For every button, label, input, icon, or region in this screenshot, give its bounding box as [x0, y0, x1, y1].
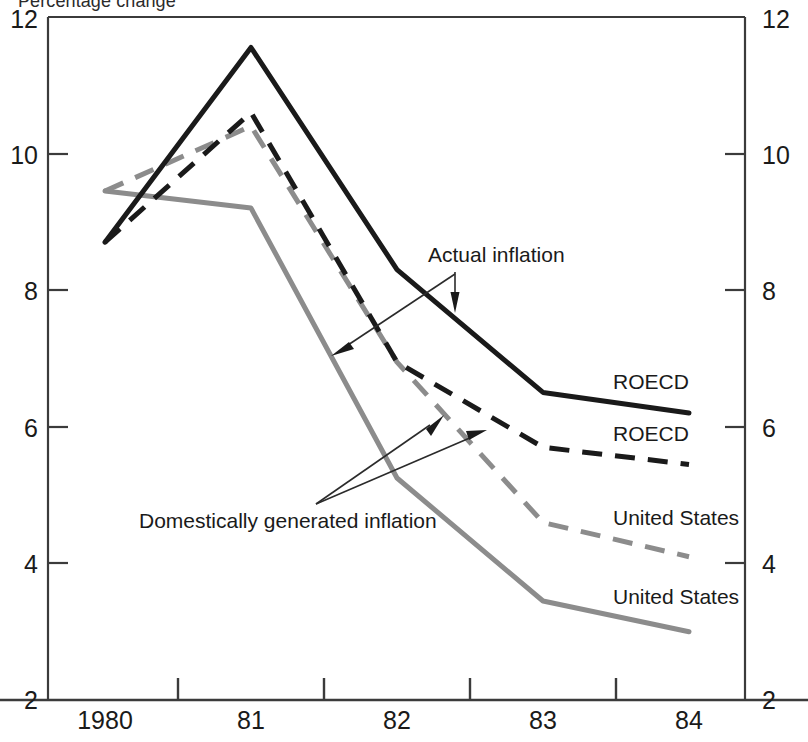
x-tick-label: 82	[383, 706, 411, 734]
y-axis-labels-left: 12 10 8 6 4 2	[10, 5, 38, 714]
series-label-us-domestic: United States	[613, 506, 739, 529]
series-label-us-domestic-group: United States	[613, 506, 739, 529]
y-tick-label: 6	[762, 414, 776, 442]
annotation-actual-inflation-label: Actual inflation	[428, 243, 565, 266]
y-tick-label: 6	[24, 414, 38, 442]
x-tick-label: 1980	[77, 706, 133, 734]
y-tick-label: 2	[24, 686, 38, 714]
y-axis-labels-right: 12 10 8 6 4 2	[762, 5, 790, 714]
annotation-domestic-inflation-label: Domestically generated inflation	[139, 509, 437, 532]
series-label-roecd-domestic-group: ROECD	[613, 422, 689, 445]
y-axis-ticks-right	[725, 154, 745, 563]
x-tick-label: 83	[529, 706, 557, 734]
series-label-roecd-actual-group: ROECD	[613, 370, 689, 393]
series-line-us-domestic	[105, 126, 689, 557]
x-tick-label: 84	[675, 706, 703, 734]
line-chart-svg: 12 10 8 6 4 2 12 10 8 6 4 2 1980 81 82 8…	[0, 0, 808, 742]
y-tick-label: 4	[24, 550, 38, 578]
series-label-roecd-domestic: ROECD	[613, 422, 689, 445]
y-tick-label: 2	[762, 686, 776, 714]
series-line-roecd-domestic	[105, 113, 689, 465]
y-axis-ticks-left	[48, 154, 68, 563]
y-tick-label: 12	[762, 5, 790, 33]
series-line-us-actual	[105, 191, 689, 632]
x-axis-ticks	[178, 678, 616, 700]
y-tick-label: 8	[24, 277, 38, 305]
chart-title: Percentage change	[18, 0, 176, 12]
series-label-us-actual-group: United States	[613, 585, 739, 608]
series-label-roecd-actual: ROECD	[613, 370, 689, 393]
y-tick-label: 4	[762, 550, 776, 578]
chart-figure: Percentage change	[0, 0, 808, 742]
x-axis-labels: 1980 81 82 83 84	[77, 706, 703, 734]
y-tick-label: 10	[10, 141, 38, 169]
y-tick-label: 10	[762, 141, 790, 169]
annotation-domestic-inflation: Domestically generated inflation	[139, 415, 487, 532]
x-tick-label: 81	[237, 706, 265, 734]
series-label-us-actual: United States	[613, 585, 739, 608]
annotation-actual-inflation: Actual inflation	[331, 243, 565, 356]
y-tick-label: 8	[762, 277, 776, 305]
